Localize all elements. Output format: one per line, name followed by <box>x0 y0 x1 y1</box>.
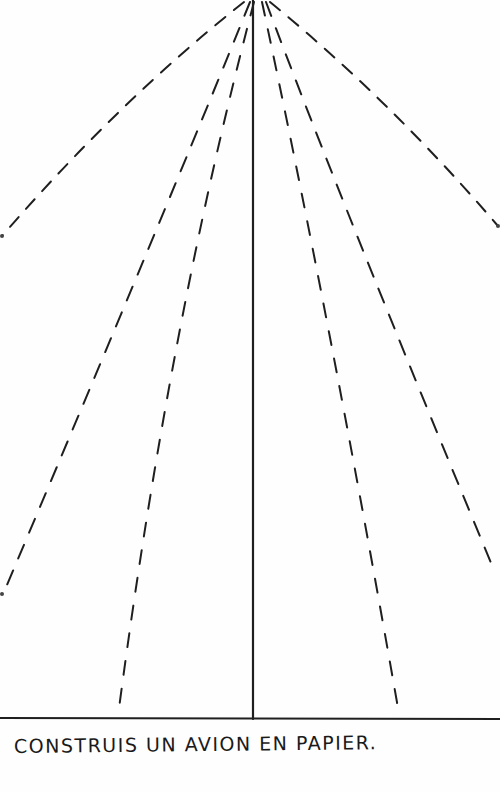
fold-line-outer-right <box>270 2 498 226</box>
left-edge-mark <box>0 234 4 238</box>
fold-line-middle-left <box>4 2 250 592</box>
fold-line-middle-right <box>266 2 494 570</box>
fold-line-inner-left <box>118 2 254 716</box>
left-edge-mark-lower <box>0 592 4 596</box>
baseline-line <box>0 718 500 719</box>
fold-line-outer-left <box>2 2 244 236</box>
fold-lines-diagram <box>0 0 500 792</box>
right-edge-mark <box>496 224 500 228</box>
paper-sheet: CONSTRUIS UN AVION EN PAPIER. <box>0 0 500 792</box>
instruction-caption: CONSTRUIS UN AVION EN PAPIER. <box>14 731 378 757</box>
fold-line-inner-right <box>262 2 398 708</box>
